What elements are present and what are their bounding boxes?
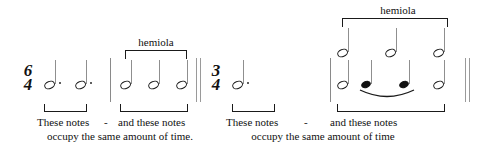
notehead-open xyxy=(43,79,56,90)
note-stem xyxy=(86,60,87,84)
augmentation-dot xyxy=(247,82,249,84)
duration-bracket-right-a xyxy=(232,104,275,112)
notehead-open xyxy=(336,47,349,58)
augmentation-dot xyxy=(59,82,61,84)
slur-quarter-notes xyxy=(358,88,416,102)
caption-left-phrase-c: occupy the same amount of time. xyxy=(30,130,210,142)
barline-double-midpoint-line-2 xyxy=(200,58,201,102)
note-stem xyxy=(55,60,56,84)
notehead-open xyxy=(336,79,349,90)
notehead-open xyxy=(231,79,244,90)
time-signature-3-4: 3 4 xyxy=(208,64,224,92)
caption-right-dash: - xyxy=(304,116,308,128)
note-stem xyxy=(444,28,445,52)
barline-final-line-2 xyxy=(469,58,470,102)
caption-right-phrase-c: occupy the same amount of time xyxy=(228,130,418,142)
caption-left-phrase-a: These notes xyxy=(37,116,89,128)
barline-final-line-1 xyxy=(465,58,466,102)
hemiola-bracket-top-right xyxy=(342,18,448,27)
augmentation-dot xyxy=(90,82,92,84)
hemiola-label-left: hemiola xyxy=(122,36,190,48)
duration-bracket-left-b xyxy=(120,104,188,112)
barline-double-midpoint-line-1 xyxy=(196,58,197,102)
note-stem xyxy=(348,60,349,84)
notehead-open xyxy=(432,79,445,90)
note-stem xyxy=(131,60,132,84)
caption-right-phrase-a: These notes xyxy=(226,116,278,128)
notehead-open xyxy=(432,47,445,58)
music-notation-figure: 6 4 hemiola These notes - and these note… xyxy=(0,0,492,150)
notehead-open xyxy=(74,79,87,90)
notehead-open xyxy=(384,47,397,58)
note-stem xyxy=(187,60,188,84)
caption-left-dash: - xyxy=(104,116,108,128)
hemiola-label-right: hemiola xyxy=(364,4,432,16)
note-stem xyxy=(243,60,244,84)
note-stem xyxy=(444,60,445,84)
barline-before-right-hemiola xyxy=(330,58,331,102)
barline-before-left-hemiola xyxy=(110,58,111,102)
duration-bracket-right-b xyxy=(337,104,445,112)
hemiola-bracket-top-left xyxy=(125,50,187,59)
caption-right-phrase-b: and these notes xyxy=(330,116,397,128)
note-stem xyxy=(371,60,372,84)
note-stem xyxy=(409,60,410,84)
duration-bracket-left-a xyxy=(44,104,87,112)
note-stem xyxy=(348,28,349,52)
time-signature-denominator: 4 xyxy=(20,78,36,92)
notehead-open xyxy=(147,79,160,90)
time-signature-denominator: 4 xyxy=(208,78,224,92)
note-stem xyxy=(159,60,160,84)
notehead-open xyxy=(119,79,132,90)
notehead-open xyxy=(175,79,188,90)
time-signature-6-4: 6 4 xyxy=(20,64,36,92)
caption-left-phrase-b: and these notes xyxy=(118,116,185,128)
note-stem xyxy=(396,28,397,52)
